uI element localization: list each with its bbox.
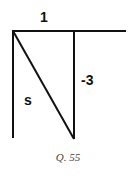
right-label: -3 xyxy=(81,72,94,88)
hypotenuse-line xyxy=(13,31,74,139)
caption: Q. 55 xyxy=(56,151,81,163)
hypotenuse-label: s xyxy=(24,92,32,108)
triangle-diagram: 1 -3 s Q. 55 xyxy=(0,0,128,176)
top-label: 1 xyxy=(40,9,48,25)
